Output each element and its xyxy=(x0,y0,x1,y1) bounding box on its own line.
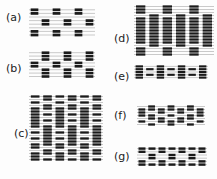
panel-label-b: (b) xyxy=(6,63,22,74)
panel-label-f: (f) xyxy=(114,110,126,121)
weave-pattern-e xyxy=(134,64,208,80)
weave-pattern-d xyxy=(134,4,214,57)
weave-pattern-g xyxy=(137,146,207,167)
panel-label-a: (a) xyxy=(6,12,21,23)
panel-label-c: (c) xyxy=(14,128,29,139)
panel-label-d: (d) xyxy=(114,33,130,44)
panel-label-e: (e) xyxy=(114,71,129,82)
weave-pattern-f xyxy=(137,104,205,127)
panel-label-g: (g) xyxy=(114,151,130,162)
weave-pattern-b xyxy=(29,50,95,79)
weave-pattern-c xyxy=(29,94,103,162)
weave-pattern-a xyxy=(29,7,95,38)
